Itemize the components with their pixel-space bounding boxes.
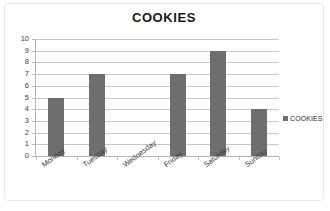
gridline (36, 121, 279, 122)
y-axis-tick-label: 8 (5, 58, 29, 66)
x-axis-tick-mark (77, 157, 78, 160)
gridline (36, 109, 279, 110)
plot-area (36, 39, 279, 156)
x-axis-tick-mark (279, 157, 280, 160)
bar (170, 74, 186, 156)
gridline (36, 39, 279, 40)
gridline (36, 133, 279, 134)
x-axis-tick-mark (158, 157, 159, 160)
y-axis-tick-label: 0 (5, 152, 29, 160)
gridline (36, 74, 279, 75)
chart-legend: COOKIES (283, 115, 323, 122)
chart-title: COOKIES (5, 10, 323, 25)
x-axis-tick-mark (36, 157, 37, 160)
y-axis-tick-label: 1 (5, 140, 29, 148)
y-axis-tick-label: 9 (5, 47, 29, 55)
y-axis-tick-label: 3 (5, 117, 29, 125)
x-axis-tick-mark (198, 157, 199, 160)
x-axis-tick-mark (117, 157, 118, 160)
x-axis-tick-mark (239, 157, 240, 160)
y-axis-tick-label: 4 (5, 105, 29, 113)
gridline (36, 51, 279, 52)
legend-label-cookies: COOKIES (290, 115, 323, 122)
y-axis-tick-label: 2 (5, 129, 29, 137)
chart-container: COOKIES 109876543210 MondayTuesdayWednes… (4, 3, 324, 201)
y-axis-tick-label: 10 (5, 35, 29, 43)
legend-swatch-cookies (283, 116, 288, 121)
y-axis-tick-label: 7 (5, 70, 29, 78)
y-axis-tick-label: 6 (5, 82, 29, 90)
gridline (36, 86, 279, 87)
y-axis-tick-label: 5 (5, 94, 29, 102)
bar (89, 74, 105, 156)
bar (210, 51, 226, 156)
gridline (36, 62, 279, 63)
gridline (36, 98, 279, 99)
